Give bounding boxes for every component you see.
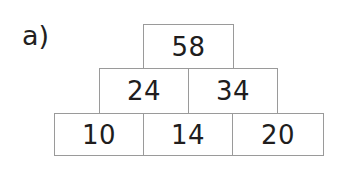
- pyramid-cell-bottom-1[interactable]: 10: [54, 113, 144, 156]
- pyramid-diagram: 58 24 34 10 14 20: [0, 0, 340, 173]
- pyramid-row-top: 58: [143, 24, 234, 69]
- number-pyramid-figure: a) 58 24 34 10 14 20: [0, 0, 340, 173]
- pyramid-row-bottom: 10 14 20: [54, 113, 324, 156]
- pyramid-row-middle: 24 34: [99, 68, 278, 114]
- pyramid-cell-bottom-3[interactable]: 20: [232, 113, 324, 156]
- pyramid-cell-top-1[interactable]: 58: [143, 24, 234, 69]
- pyramid-cell-bottom-2[interactable]: 14: [143, 113, 233, 156]
- pyramid-cell-middle-1[interactable]: 24: [99, 68, 189, 114]
- pyramid-cell-middle-2[interactable]: 34: [188, 68, 278, 114]
